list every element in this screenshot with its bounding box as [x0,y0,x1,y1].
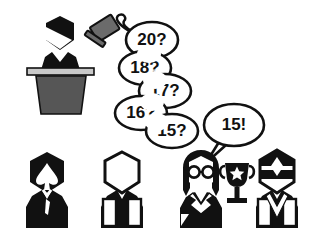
podium-top [27,68,94,75]
trophy-stem [235,187,240,198]
auctioneer-head [46,16,74,50]
bubble-merge-17-16 [140,93,164,111]
bubble-merge-18-17 [143,71,167,89]
winning-bid-label: 15! [222,115,247,134]
auctioneer-group [27,14,120,114]
podium-body [36,76,86,114]
winning-bid-bubble: 15! [204,104,264,163]
bidder-2-shoulder-right [128,199,141,226]
bidder-2-shoulder-left [103,199,116,226]
trophy [220,163,254,203]
bidder-2-outline [101,152,143,228]
auction-illustration: 20? 18? 17? 16? 15? [0,0,324,236]
auction-scene-canvas: 20? 18? 17? 16? 15? [0,0,324,236]
bidder-3-winner [180,150,222,228]
bid-bubble-chain: 20? 18? 17? 16? 15? [115,15,198,148]
trophy-base [227,198,247,203]
bubble-merge-20-18 [137,45,161,63]
bidder-4-visor [256,150,298,228]
bidder-1-spade [26,152,68,228]
gavel [84,14,119,47]
glasses-lens-left [188,166,199,177]
glasses-lens-right [202,166,213,177]
bidder-2-head [105,152,139,193]
glasses-temple-right [214,171,219,172]
trophy-handle-right [249,166,254,178]
glasses-temple-left [184,171,189,172]
trophy-handle-left [220,166,225,178]
bubble-merge-16-15 [145,113,169,131]
